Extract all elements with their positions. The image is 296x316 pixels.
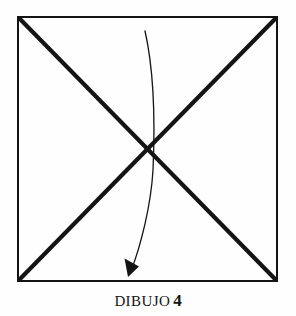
caption-label: DIBUJO bbox=[114, 293, 170, 309]
caption-number: 4 bbox=[173, 291, 182, 310]
figure-caption: DIBUJO4 bbox=[0, 292, 296, 309]
figure-container: DIBUJO4 bbox=[0, 0, 296, 316]
line-drawing bbox=[0, 0, 296, 316]
